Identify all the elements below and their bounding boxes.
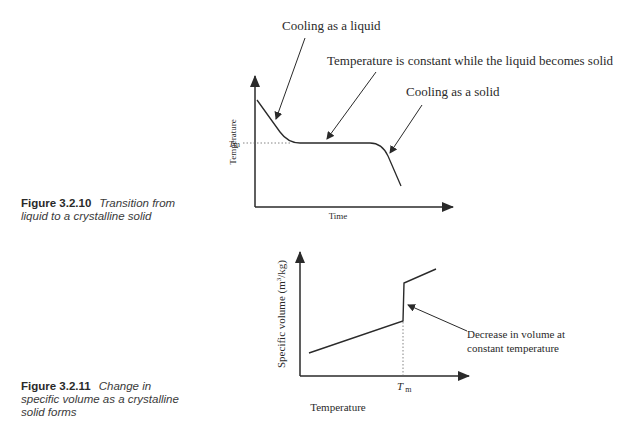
figure-caption-line1: Change in <box>99 380 151 392</box>
x-axis-label: Time <box>329 211 348 221</box>
arrow-volume-decrease <box>408 305 467 331</box>
figure-caption-line2: liquid to a crystalline solid <box>21 210 151 222</box>
specific-volume-line <box>309 269 436 353</box>
tm-marker: Tm <box>397 380 412 394</box>
cooling-curve-chart: Temperature Tm Time Cooling as a liquid … <box>228 18 614 221</box>
annotation-cooling-liquid: Cooling as a liquid <box>282 18 381 33</box>
figure-caption-line1: Transition from <box>99 197 175 209</box>
figure-caption-3-2-11: Figure 3.2.11Change in specific volume a… <box>21 380 241 419</box>
x-axis-label: Temperature <box>310 401 366 413</box>
annotation-volume-decrease: Decrease in volume at constant temperatu… <box>467 328 568 354</box>
specific-volume-chart: Specific volume (m3/kg) Tm Temperature D… <box>275 252 568 413</box>
tm-marker: Tm <box>229 139 241 149</box>
figure-caption-line3: solid forms <box>21 406 77 418</box>
figure-number: Figure 3.2.10 <box>21 197 91 209</box>
figure-number: Figure 3.2.11 <box>21 380 91 392</box>
annotation-cooling-solid: Cooling as a solid <box>406 84 500 99</box>
y-axis-label: Specific volume (m3/kg) <box>275 260 288 368</box>
figure-caption-line2: specific volume as a crystalline <box>21 393 179 405</box>
annotation-constant-temp: Temperature is constant while the liquid… <box>327 53 614 68</box>
figure-caption-3-2-10: Figure 3.2.10Transition from liquid to a… <box>21 197 241 223</box>
arrow-constant-temp <box>327 72 376 139</box>
arrow-cooling-liquid <box>276 38 305 119</box>
arrow-cooling-solid <box>390 105 422 153</box>
